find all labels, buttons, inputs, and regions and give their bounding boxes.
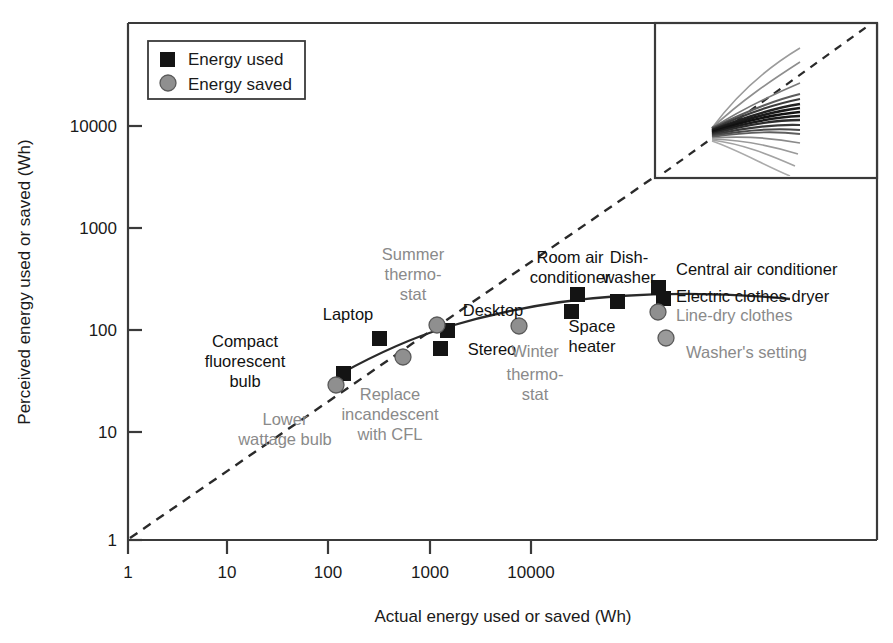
marker-washers-setting [658, 330, 674, 346]
label-compact-line3: bulb [229, 372, 260, 390]
marker-summer-thermostat [429, 317, 445, 333]
label-compact-line2: fluorescent [205, 352, 286, 370]
label-roomac-line2: conditioner [530, 268, 611, 286]
x-tick-label-1: 1 [123, 563, 132, 582]
marker-line-dry-clothes [650, 304, 666, 320]
x-tick-label-10: 10 [218, 563, 237, 582]
label-summer-line3: stat [400, 285, 427, 303]
marker-lower-wattage-bulb [328, 377, 344, 393]
label-electric-clothes-dryer: Electric clothes dryer [676, 287, 830, 305]
label-space-line2: heater [569, 337, 616, 355]
y-tick-label-100: 100 [89, 321, 117, 340]
marker-dishwasher [610, 294, 625, 309]
label-lower-line1: Lower [263, 410, 308, 428]
marker-replace-incandescent-with-cfl [395, 349, 411, 365]
x-tick-label-100: 100 [314, 563, 342, 582]
legend-marker-energy-used [160, 52, 175, 67]
label-winter-line3: stat [522, 385, 549, 403]
label-summer-line2: thermo- [385, 265, 442, 283]
label-stereo: Stereo [468, 340, 517, 358]
label-roomac-line1: Room air [537, 248, 604, 266]
label-compact-line1: Compact [212, 332, 278, 350]
y-tick-label-1000: 1000 [79, 219, 117, 238]
marker-laptop [372, 331, 387, 346]
x-tick-label-1000: 1000 [411, 563, 449, 582]
inset-panel [640, 10, 890, 190]
chart-svg: 1 10 100 1000 10000 1 10 100 1000 10000 … [0, 0, 893, 643]
label-space-line1: Space [569, 317, 616, 335]
y-tick-label-1: 1 [108, 531, 117, 550]
marker-room-air-conditioner [570, 287, 585, 302]
label-summer-line1: Summer [382, 245, 445, 263]
label-winter-line2: thermo- [507, 365, 564, 383]
label-dish-line1: Dish- [610, 248, 649, 266]
y-tick-label-10000: 10000 [70, 117, 117, 136]
legend-label-energy-saved: Energy saved [188, 75, 292, 94]
y-axis-title: Perceived energy used or saved (Wh) [15, 139, 34, 424]
legend: Energy used Energy saved [148, 41, 305, 99]
energy-perception-scatter-figure: 1 10 100 1000 10000 1 10 100 1000 10000 … [0, 0, 893, 643]
x-tick-label-10000: 10000 [507, 563, 554, 582]
x-axis-title: Actual energy used or saved (Wh) [374, 607, 631, 626]
label-washers-setting: Washer's setting [686, 343, 807, 361]
y-tick-label-10: 10 [98, 423, 117, 442]
label-replace-line2: incandescent [341, 405, 439, 423]
label-line-dry-clothes: Line-dry clothes [676, 306, 792, 324]
legend-marker-energy-saved [160, 75, 176, 91]
label-laptop: Laptop [323, 305, 373, 323]
label-desktop: Desktop [463, 301, 524, 319]
label-replace-line3: with CFL [356, 425, 422, 443]
marker-winter-thermostat [511, 318, 527, 334]
label-lower-line2: wattage bulb [237, 430, 332, 448]
label-central-air-conditioner: Central air conditioner [676, 260, 838, 278]
label-dish-line2: washer [601, 268, 656, 286]
label-winter-line1: Winter [511, 342, 559, 360]
marker-stereo [433, 341, 448, 356]
label-replace-line1: Replace [360, 385, 421, 403]
legend-label-energy-used: Energy used [188, 50, 283, 69]
